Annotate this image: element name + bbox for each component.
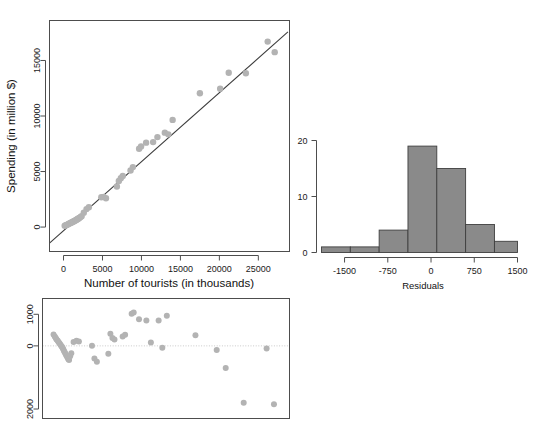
residual-point	[264, 345, 270, 351]
residual-point	[241, 400, 247, 406]
residual-panel: 100002000	[0, 292, 300, 432]
residual-point	[214, 347, 220, 353]
histogram-bar	[494, 241, 517, 252]
residual-point	[223, 365, 229, 371]
residual-y-tick-label: 0	[25, 343, 35, 348]
histogram-bar	[322, 247, 351, 253]
residual-svg: 100002000	[0, 292, 300, 432]
histogram-x-axis-label: Residuals	[402, 280, 444, 291]
histogram-y-tick-label: 0	[302, 248, 307, 258]
scatter-point	[130, 164, 136, 170]
figure-canvas: 0500010000150002000025000 05000100001500…	[0, 0, 535, 432]
scatter-y-tick-label: 15000	[32, 48, 42, 73]
histogram-bar	[408, 146, 437, 252]
scatter-y-axis: 050001000015000	[32, 48, 46, 230]
residual-point	[143, 318, 149, 324]
scatter-x-axis: 0500010000150002000025000	[61, 256, 271, 274]
residual-point	[94, 359, 100, 365]
scatter-point	[264, 38, 270, 44]
residual-content	[43, 309, 290, 407]
histogram-y-tick-label: 20	[297, 136, 307, 146]
scatter-point	[150, 139, 156, 145]
scatter-content	[50, 32, 288, 243]
scatter-y-tick-label: 5000	[32, 162, 42, 182]
scatter-x-tick-label: 0	[61, 264, 66, 274]
histogram-y-tick-label: 10	[297, 192, 307, 202]
histogram-x-tick-label: 750	[467, 266, 482, 276]
residual-point	[111, 337, 117, 343]
scatter-point	[169, 117, 175, 123]
scatter-y-axis-label: Spending (in million $)	[5, 79, 17, 193]
histogram-y-axis: 01020	[297, 136, 316, 258]
residual-point	[156, 318, 162, 324]
residual-point	[164, 313, 170, 319]
scatter-svg: 0500010000150002000025000 05000100001500…	[0, 0, 300, 292]
scatter-point	[143, 139, 149, 145]
scatter-point	[103, 195, 109, 201]
scatter-x-tick-label: 10000	[129, 264, 154, 274]
histogram-bar	[437, 169, 466, 253]
histogram-x-tick-label: -750	[379, 266, 397, 276]
scatter-x-axis-label: Number of tourists (in thousands)	[84, 277, 254, 289]
residual-point	[136, 316, 142, 322]
scatter-point	[86, 204, 92, 210]
histogram-x-tick-label: 0	[429, 266, 434, 276]
scatter-point	[120, 173, 126, 179]
scatter-y-tick-label: 0	[32, 225, 42, 230]
residual-point	[89, 343, 95, 349]
scatter-point	[217, 86, 223, 92]
scatter-x-tick-label: 15000	[168, 264, 193, 274]
histogram-bars	[322, 146, 518, 252]
residual-point	[159, 345, 165, 351]
residual-point	[68, 350, 74, 356]
scatter-point	[154, 134, 160, 140]
histogram-bar	[350, 247, 379, 253]
scatter-x-tick-label: 25000	[246, 264, 271, 274]
residual-point	[271, 401, 277, 407]
scatter-point	[114, 183, 120, 189]
histogram-panel: -1500-75007501500 01020 Residuals	[295, 126, 535, 296]
residual-point	[148, 339, 154, 345]
residual-point	[192, 332, 198, 338]
scatter-point	[271, 49, 277, 55]
scatter-y-tick-label: 10000	[32, 103, 42, 128]
scatter-plot-area	[50, 32, 288, 243]
scatter-x-tick-label: 5000	[92, 264, 112, 274]
histogram-x-axis: -1500-75007501500	[333, 258, 527, 276]
histogram-bar	[466, 225, 495, 253]
histogram-bar	[379, 230, 408, 252]
scatter-point	[165, 131, 171, 137]
histogram-x-tick-label: 1500	[507, 266, 527, 276]
residual-plot-area	[43, 309, 290, 407]
residual-point	[122, 332, 128, 338]
scatter-point	[243, 70, 249, 76]
scatter-point	[138, 143, 144, 149]
residual-y-tick-label: 1000	[25, 304, 35, 324]
scatter-panel: 0500010000150002000025000 05000100001500…	[0, 0, 300, 292]
histogram-x-tick-label: -1500	[333, 266, 356, 276]
residual-point	[76, 338, 82, 344]
scatter-point	[197, 90, 203, 96]
residual-point	[105, 351, 111, 357]
residual-y-axis: 100002000	[25, 304, 39, 419]
scatter-point	[226, 69, 232, 75]
histogram-svg: -1500-75007501500 01020 Residuals	[295, 126, 535, 296]
residual-y-tick-label: 2000	[25, 399, 35, 419]
residual-point	[131, 309, 137, 315]
scatter-x-tick-label: 20000	[207, 264, 232, 274]
